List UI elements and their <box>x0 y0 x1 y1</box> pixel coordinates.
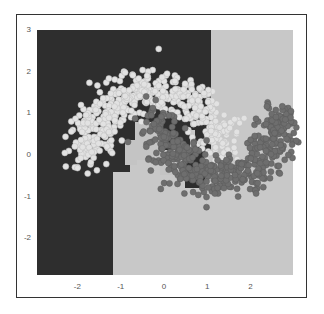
data-point <box>106 129 112 135</box>
data-point <box>62 150 68 156</box>
data-point <box>103 161 109 167</box>
data-point <box>85 120 91 126</box>
data-point <box>279 103 285 109</box>
data-point <box>106 115 112 121</box>
data-point <box>122 70 128 76</box>
data-point <box>147 128 153 134</box>
data-point <box>141 129 147 135</box>
data-point <box>130 72 136 78</box>
data-point <box>97 148 103 154</box>
data-point <box>218 173 224 179</box>
data-point <box>204 137 210 143</box>
data-point <box>158 114 164 120</box>
data-point <box>78 155 84 161</box>
data-point <box>278 142 284 148</box>
data-point <box>198 103 204 109</box>
data-point <box>228 163 234 169</box>
y-axis-ticks: 3210-1-2 <box>24 25 32 242</box>
data-point <box>79 129 85 135</box>
data-point <box>141 81 147 87</box>
data-point <box>156 46 162 52</box>
data-point <box>125 139 131 145</box>
data-point <box>158 186 164 192</box>
data-point <box>86 80 92 86</box>
data-point <box>253 191 259 197</box>
data-point <box>186 165 192 171</box>
data-point <box>165 160 171 166</box>
data-point <box>213 144 219 150</box>
data-point <box>132 102 138 108</box>
data-point <box>85 171 91 177</box>
data-point <box>171 118 177 124</box>
data-point <box>172 169 178 175</box>
data-point <box>132 116 138 122</box>
data-point <box>182 81 188 87</box>
data-point <box>212 178 218 184</box>
data-point <box>202 152 208 158</box>
data-point <box>119 138 125 144</box>
data-point <box>181 191 187 197</box>
data-point <box>201 90 207 96</box>
data-point <box>205 99 211 105</box>
data-point <box>108 91 114 97</box>
data-point <box>73 116 79 122</box>
data-point <box>126 87 132 93</box>
data-point <box>96 141 102 147</box>
data-point <box>263 136 269 142</box>
data-point <box>235 194 241 200</box>
data-point <box>246 162 252 168</box>
data-point <box>101 133 107 139</box>
data-point <box>156 83 162 89</box>
data-point <box>273 114 279 120</box>
data-point <box>63 164 69 170</box>
data-point <box>263 159 269 165</box>
x-tick-label: -1 <box>117 282 125 291</box>
data-point <box>153 97 159 103</box>
data-point <box>189 87 195 93</box>
data-point <box>68 129 74 135</box>
data-point <box>161 134 167 140</box>
data-point <box>204 194 210 200</box>
data-point <box>83 112 89 118</box>
data-point <box>277 171 283 177</box>
data-point <box>204 179 210 185</box>
data-point <box>279 128 285 134</box>
data-point <box>259 154 265 160</box>
data-point <box>178 162 184 168</box>
x-tick-label: 0 <box>162 282 167 291</box>
data-point <box>183 116 189 122</box>
data-point <box>197 178 203 184</box>
data-point <box>240 176 246 182</box>
data-point <box>271 136 277 142</box>
data-point <box>94 167 100 173</box>
data-point <box>192 147 198 153</box>
data-point <box>170 130 176 136</box>
data-point <box>136 76 142 82</box>
data-point <box>161 180 167 186</box>
data-point <box>223 157 229 163</box>
data-point <box>241 115 247 121</box>
data-point <box>97 89 103 95</box>
data-point <box>207 163 213 169</box>
data-point <box>231 138 237 144</box>
data-point <box>175 138 181 144</box>
data-point <box>75 165 81 171</box>
data-point <box>166 167 172 173</box>
data-point <box>208 128 214 134</box>
x-tick-label: 2 <box>248 282 253 291</box>
data-point <box>145 157 151 163</box>
data-point <box>181 171 187 177</box>
data-point <box>247 186 253 192</box>
data-point <box>221 112 227 118</box>
data-point <box>172 86 178 92</box>
data-point <box>192 92 198 98</box>
data-point <box>160 152 166 158</box>
data-point <box>121 87 127 93</box>
data-point <box>91 155 97 161</box>
data-point <box>122 93 128 99</box>
data-point <box>150 105 156 111</box>
data-point <box>217 125 223 131</box>
data-point <box>112 129 118 135</box>
data-point <box>80 144 86 150</box>
data-point <box>177 147 183 153</box>
